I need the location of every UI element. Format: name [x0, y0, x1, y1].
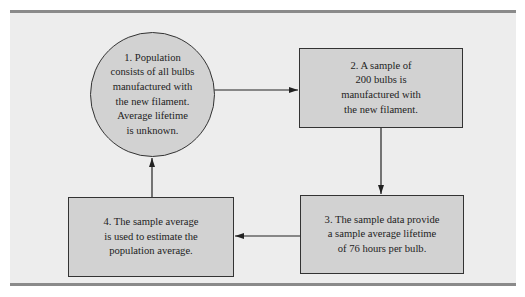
node-estimate-box: 4. The sample average is used to estimat…: [68, 197, 234, 277]
node-2-text: 2. A sample of 200 bulbs is manufactured…: [341, 59, 421, 117]
node-sample-data-box: 3. The sample data provide a sample aver…: [300, 195, 464, 274]
node-population-circle: 1. Population consists of all bulbs manu…: [90, 32, 215, 157]
node-1-text: 1. Population consists of all bulbs manu…: [111, 51, 195, 139]
top-rule: [10, 10, 516, 13]
node-sample-box: 2. A sample of 200 bulbs is manufactured…: [299, 48, 463, 128]
node-3-text: 3. The sample data provide a sample aver…: [325, 213, 440, 257]
bottom-rule: [10, 283, 516, 286]
node-4-text: 4. The sample average is used to estimat…: [103, 215, 198, 259]
